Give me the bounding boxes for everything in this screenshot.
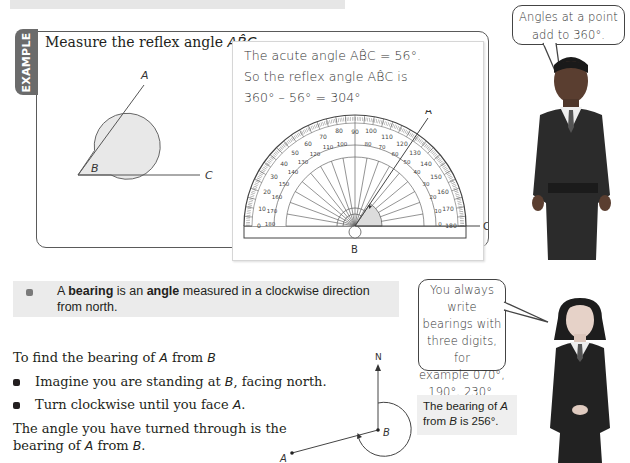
solution-line-1: The acute angle AB̂C = 56°. <box>244 48 421 63</box>
svg-text:110: 110 <box>381 133 393 140</box>
svg-text:140: 140 <box>288 169 299 175</box>
svg-text:60: 60 <box>304 140 312 147</box>
speech-bubble-angles: Angles at a point add to 360°. <box>512 5 625 45</box>
protractor-diagram: 0 10 20 30 40 50 60 70 80 90 100 110 120… <box>238 110 488 260</box>
svg-text:C: C <box>483 221 488 232</box>
speech-bubble-three-digits: You always write bearings with three dig… <box>418 279 506 371</box>
svg-text:120: 120 <box>310 151 321 157</box>
svg-text:50: 50 <box>404 159 411 165</box>
svg-text:50: 50 <box>291 149 299 156</box>
bearing-diagram: N B A <box>275 350 415 463</box>
example-tab: EXAMPLE <box>15 29 38 95</box>
solution-line-2: So the reflex angle AB̂C is <box>244 69 408 84</box>
boy-character-image <box>528 55 628 260</box>
svg-text:80: 80 <box>335 127 343 134</box>
svg-text:40: 40 <box>280 160 288 167</box>
solution-line-3: 360° – 56° = 304° <box>244 90 361 105</box>
svg-text:B: B <box>383 427 390 438</box>
svg-text:110: 110 <box>323 144 334 150</box>
top-decoration-strip <box>10 0 345 9</box>
svg-text:130: 130 <box>409 149 421 156</box>
svg-text:80: 80 <box>365 141 372 147</box>
svg-text:C: C <box>205 169 213 182</box>
svg-text:150: 150 <box>430 173 442 180</box>
svg-text:A: A <box>425 110 432 116</box>
svg-text:60: 60 <box>392 151 399 157</box>
svg-text:100: 100 <box>337 141 348 147</box>
svg-text:140: 140 <box>420 160 432 167</box>
solution-card: The acute angle AB̂C = 56°. So the refle… <box>232 41 484 261</box>
bullet-icon <box>13 402 20 409</box>
definition-text: A bearing is an angle measured in a cloc… <box>57 283 392 315</box>
svg-text:70: 70 <box>319 133 327 140</box>
svg-text:20: 20 <box>430 194 437 200</box>
angle-abc-diagram: A B C <box>40 55 230 205</box>
svg-text:40: 40 <box>414 169 421 175</box>
instruction-conclusion: The angle you have turned through is the… <box>13 420 287 454</box>
definition-box: A bearing is an angle measured in a cloc… <box>13 281 399 317</box>
bullet-icon <box>13 379 20 386</box>
svg-text:120: 120 <box>396 140 408 147</box>
svg-text:10: 10 <box>258 205 266 212</box>
svg-text:30: 30 <box>423 181 430 187</box>
svg-text:150: 150 <box>279 181 290 187</box>
svg-text:70: 70 <box>379 144 386 150</box>
svg-text:A: A <box>279 453 287 463</box>
svg-text:160: 160 <box>272 194 283 200</box>
svg-text:130: 130 <box>298 159 309 165</box>
svg-text:160: 160 <box>437 188 449 195</box>
svg-text:0: 0 <box>257 222 261 229</box>
girl-character-image <box>540 298 630 463</box>
svg-text:B: B <box>351 244 358 255</box>
svg-text:10: 10 <box>435 208 442 214</box>
svg-text:30: 30 <box>270 173 278 180</box>
svg-text:B: B <box>91 162 99 175</box>
svg-text:A: A <box>140 69 149 82</box>
svg-text:100: 100 <box>365 127 377 134</box>
instructions-heading: To find the bearing of A from B <box>13 349 216 366</box>
bullet-icon <box>26 289 33 296</box>
svg-text:170: 170 <box>442 205 454 212</box>
answer-box: The bearing of A from B is 256°. <box>417 395 517 435</box>
example-question: Measure the reflex angle AB̂C. <box>45 34 261 50</box>
instruction-step-2: Turn clockwise until you face A. <box>35 396 245 413</box>
svg-text:170: 170 <box>267 208 278 214</box>
svg-text:20: 20 <box>263 188 271 195</box>
svg-text:N: N <box>375 352 382 362</box>
svg-text:90: 90 <box>351 128 359 135</box>
svg-text:180: 180 <box>265 221 276 227</box>
example-tab-label: EXAMPLE <box>20 32 33 92</box>
